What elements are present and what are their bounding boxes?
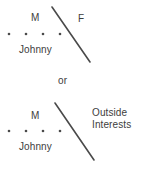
outside-interests-label: Outside Interests [92, 107, 142, 131]
sibling-dot [8, 130, 11, 133]
sibling-dot [59, 33, 62, 36]
or-connector-label: or [58, 75, 67, 86]
bottom-male-label: M [31, 110, 39, 121]
sibling-dot [59, 130, 62, 133]
sibling-dot [42, 130, 45, 133]
sibling-dot-row-top [8, 33, 62, 36]
sibling-dot [8, 33, 11, 36]
divider-line-bottom [55, 103, 94, 160]
sibling-dot [42, 33, 45, 36]
bottom-child-label: Johnny [19, 141, 52, 152]
divider-line-top [52, 7, 90, 62]
outside-interests-line-1: Outside [92, 107, 127, 118]
sibling-dot [25, 33, 28, 36]
top-male-label: M [31, 12, 39, 23]
outside-interests-line-2: Interests [92, 119, 131, 130]
genogram-diagram: M F Johnny or M Outside Interests Johnny [0, 0, 142, 169]
top-child-label: Johnny [19, 44, 52, 55]
sibling-dot-row-bottom [8, 130, 62, 133]
sibling-dot [25, 130, 28, 133]
top-female-label: F [78, 13, 84, 24]
